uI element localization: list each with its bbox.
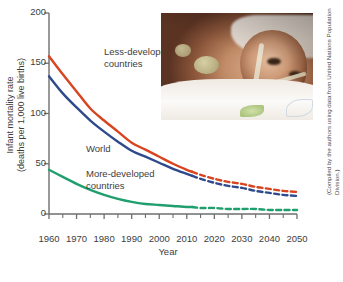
x-tick-label-2050: 2050 [277,233,317,244]
y-axis-title: Infant mortality rate (deaths per 1,000 … [5,25,27,205]
chart-source-credit: (Compiled by the authors using data from… [325,5,341,195]
premature-infant-photo [161,13,313,120]
annotation-more-developed-line1: More-developed [86,168,155,180]
annotation-more-developed-countries: More-developed countries [86,168,155,191]
annotation-more-developed-line2: countries [86,180,155,192]
y-tick-label-200: 200 [12,6,46,17]
annotation-world: World [86,143,111,155]
y-tick-label-0: 0 [12,207,46,218]
y-axis-title-line1: Infant mortality rate [5,76,15,153]
y-axis-title-line2: (deaths per 1,000 live births) [16,25,27,205]
infant-mortality-chart-figure: 050100150200 196019701980199020002010202… [0,0,343,282]
annotation-world-line1: World [86,143,111,155]
series-projection-world [192,176,297,196]
photo-sensor-pad-small [175,44,192,57]
series-projection-more-developed-countries [192,207,297,210]
x-axis-title: Year [128,246,208,257]
photo-sensor-pad [194,56,218,74]
